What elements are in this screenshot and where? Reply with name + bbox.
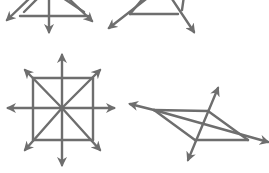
- segment: [154, 110, 208, 111]
- ray: [62, 108, 100, 150]
- ray: [130, 104, 154, 110]
- figure-bottom-left: [8, 55, 114, 165]
- segment: [154, 110, 195, 140]
- ray: [188, 124, 203, 160]
- figure-top-left: [7, 0, 92, 32]
- ray: [62, 70, 100, 108]
- segment: [182, 0, 184, 10]
- ray: [25, 108, 62, 150]
- geometry-diagram: [0, 0, 269, 173]
- ray: [203, 88, 218, 124]
- ray: [25, 70, 62, 108]
- ray: [154, 110, 268, 142]
- figure-bottom-right: [130, 88, 268, 160]
- figure-top-middle: [109, 0, 194, 32]
